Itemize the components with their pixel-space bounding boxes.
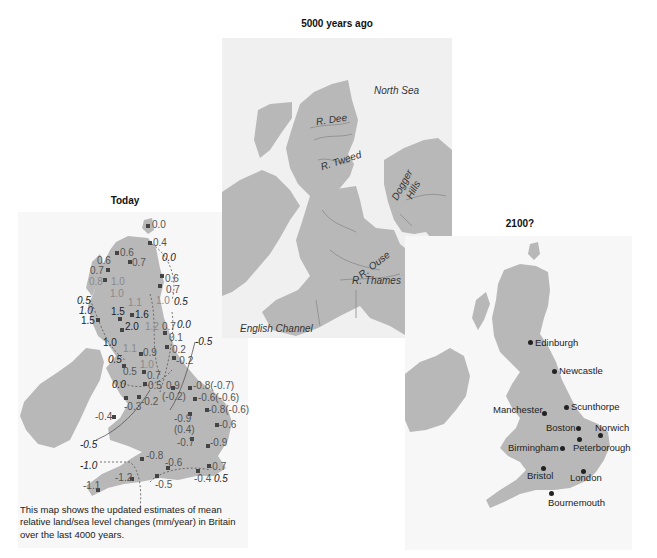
site-value: 0.7 [132,258,146,268]
site-value: -0.2 [141,397,158,407]
site-value: -0.5 [155,480,172,490]
site-value: -0.8(-0.7) [193,381,234,391]
site-value: -0.7 [209,462,226,472]
city-label: Norwich [595,423,629,433]
site-value: -0.4 [194,474,211,484]
city-label: Manchester [493,405,543,415]
contour-value: 0.0 [112,380,126,390]
site-value: 1.2 [145,322,159,332]
city-dot [552,369,557,374]
contour-value: 0.5 [174,297,188,307]
city-dot [528,340,533,345]
city-dot [564,405,569,410]
site-value: 0.5 [123,367,137,377]
site-value: -0.4 [95,412,112,422]
site-value: 0.5 [148,381,162,391]
site-value: -0.8(-0.6) [208,405,249,415]
contour-value: -0.5 [80,440,97,450]
city-label: Newcastle [559,366,603,376]
site-value: 1.0 [111,277,125,287]
contour-value: 1.0 [79,306,93,316]
site-value: 1.5 [111,307,125,317]
site-value: 0.9 [166,381,180,391]
today-caption: This map shows the updated estimates of … [20,504,250,541]
city-label: Scunthorpe [571,402,620,412]
site-value: 1.0 [110,289,124,299]
site-value: 0.1 [169,333,183,343]
site-value: 0.7 [166,285,180,295]
site-value: 0.7 [162,322,176,332]
island-landmass [254,102,292,158]
site-value: (0.4) [174,425,195,435]
city-dot [560,446,565,451]
site-value: 1.6 [135,310,149,320]
site-value: -0.3 [124,402,141,412]
ireland-landmass [405,348,470,432]
site-value: 1.1 [128,298,142,308]
contour-value: -0.5 [195,337,212,347]
site-value: 1.5 [81,316,95,326]
city-label: Boston [546,423,576,433]
city-dot [549,491,554,496]
site-value: 1.0 [103,338,117,348]
site-value: -0.6 [165,458,182,468]
city-label: London [570,473,602,483]
site-value: -0.7 [177,438,194,448]
shetland-landmass [528,242,540,260]
site-value: 0.9 [143,348,157,358]
contour-value: 0.0 [177,320,191,330]
site-value: -0.9 [174,414,191,424]
label-north-sea: North Sea [374,86,419,96]
site-value: -0.6(-0.6) [198,393,239,403]
site-value: -0.6 [219,420,236,430]
site-value: 1.0 [156,296,170,306]
contour-value: 0.5 [214,474,228,484]
city-label: Peterborough [573,443,631,453]
title-today: Today [60,195,190,206]
city-dot [542,411,547,416]
city-label: Edinburgh [535,338,578,348]
site-value: 0.6 [165,274,179,284]
label-english-channel: English Channel [240,324,313,334]
site-value: -1.2 [115,473,132,483]
contour-value: -1.0 [80,461,97,471]
title-future: 2100? [460,218,580,229]
contour-value: 0.0 [162,253,176,263]
city-dot [598,433,603,438]
site-value: 0.4 [153,238,167,248]
title-past: 5000 years ago [222,18,452,29]
contour-value: 0.5 [108,355,122,365]
label-river-thames: R. Thames [352,276,401,286]
site-value: -0.9 [210,438,227,448]
site-value: 0.2 [172,345,186,355]
site-value: 0.0 [152,220,166,230]
site-value: -0.2 [176,356,193,366]
ireland-landmass [20,348,104,448]
city-label: Bristol [527,471,553,481]
site-value: 0.8 [89,277,103,287]
city-dot [576,426,581,431]
west-landmass [222,170,300,296]
site-value: 2.0 [125,322,139,332]
city-label: Birmingham [508,443,559,453]
city-label: Bournemouth [548,498,605,508]
site-value: 0.7 [90,266,104,276]
site-value: (-0.2) [162,392,186,402]
site-value: 1.1 [123,344,137,354]
site-value: -0.8 [146,451,163,461]
site-value: 1.0 [140,360,154,370]
hebrides-landmass [472,292,490,330]
site-value: -1.1 [83,481,100,491]
